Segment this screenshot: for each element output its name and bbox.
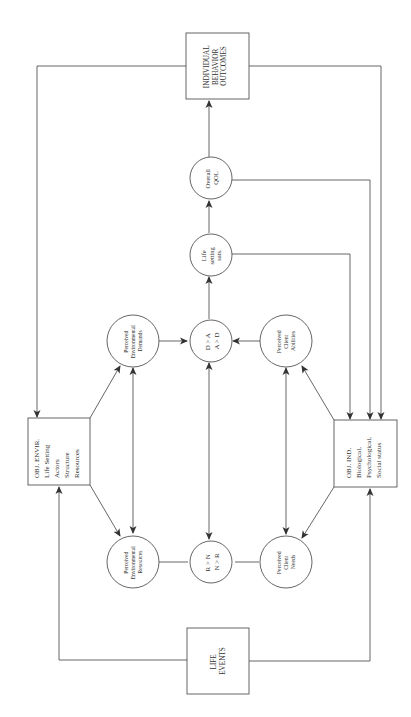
node-obj-ind: OBJ. IND. Biological, Psychological, Soc… [334, 420, 397, 487]
edge-objenvir-to-demands [90, 366, 120, 418]
svg-text:D > A A > D: D > A A > D [204, 332, 221, 351]
edge-objind-to-needs [302, 487, 334, 538]
edge-outcomes-to-obj-envir [37, 66, 186, 417]
node-client-abilities: Perceived Client Abilities [260, 315, 312, 367]
edge-objind-to-abilities [302, 366, 334, 420]
node-da-compare: D > A A > D [190, 320, 232, 362]
edge-outcomes-to-obj-ind [249, 66, 381, 419]
node-rn-compare: R > N N > R [190, 541, 232, 583]
node-life-events: LIFE EVENTS [187, 628, 249, 694]
node-outcomes: INDIVIDUAL BEHAVIOR OUTCOMES [186, 33, 249, 99]
svg-text:INDIVIDUAL BEHAVIOR: INDIVIDUAL BEHAVIOR OUTCOMES [203, 44, 228, 88]
node-client-needs: Perceived Client Needs [260, 536, 312, 588]
node-env-resources: Perceived Environmental Resources [107, 536, 159, 588]
edge-objenvir-to-resources [90, 485, 120, 536]
node-obj-envir: OBJ. ENVIR. Life Setting Actors Structur… [28, 418, 90, 485]
node-overall-qol: Overall QOL [190, 157, 232, 199]
svg-text:R > N N > R: R > N N > R [204, 553, 221, 572]
edge-qol-to-obj-ind [232, 180, 370, 419]
node-life-setting-sats: Life setting sats. [190, 234, 232, 276]
node-env-demands: Perceived Environmental Demands [107, 315, 159, 367]
person-environment-fit-diagram: INDIVIDUAL BEHAVIOR OUTCOMES OBJ. ENVIR.… [0, 0, 411, 717]
